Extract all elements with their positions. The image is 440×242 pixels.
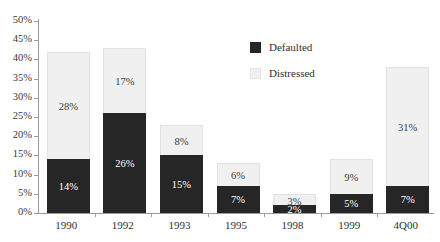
y-axis-tick-label: 20% — [2, 130, 32, 140]
legend-swatch-defaulted-icon — [250, 42, 261, 53]
y-axis-tick-label: 25% — [2, 111, 32, 121]
y-axis-tick-label: 5% — [2, 188, 32, 198]
y-axis-tick-label: 45% — [2, 34, 32, 44]
x-axis-category-label: 1999 — [317, 219, 381, 231]
bar-segment-defaulted[interactable]: 2% — [273, 205, 316, 213]
bar-value-label-distressed: 17% — [104, 76, 145, 87]
y-axis-tick-mark — [34, 213, 39, 214]
y-axis-tick-mark — [34, 21, 39, 22]
bar-value-label-distressed: 28% — [48, 101, 89, 112]
y-axis-tick-mark — [34, 155, 39, 156]
bar-value-label-distressed: 9% — [331, 172, 372, 183]
y-axis-tick-mark — [34, 194, 39, 195]
bar-group[interactable]: 3%2% — [273, 194, 316, 213]
x-axis-category-label: 1990 — [34, 219, 98, 231]
x-axis-category-label: 4Q00 — [374, 219, 438, 231]
bar-group[interactable]: 6%7% — [217, 163, 260, 213]
bars-container: 28%14%17%26%8%15%6%7%3%2%9%5%31%7% — [38, 0, 434, 242]
x-axis-tick-mark — [151, 213, 152, 217]
bar-group[interactable]: 31%7% — [386, 67, 429, 213]
y-axis-tick-label: 40% — [2, 53, 32, 63]
bar-value-label-defaulted: 2% — [273, 204, 316, 215]
y-axis-labels: 50%45%40%35%30%25%20%15%10%5%0% — [0, 0, 32, 242]
y-axis-tick-mark — [34, 175, 39, 176]
bar-segment-distressed[interactable]: 31% — [386, 67, 429, 186]
bar-segment-distressed[interactable]: 9% — [330, 159, 373, 194]
legend-label-distressed: Distressed — [269, 67, 315, 79]
bar-group[interactable]: 9%5% — [330, 159, 373, 213]
x-axis-category-label: 1995 — [204, 219, 268, 231]
x-axis-tick-mark — [321, 213, 322, 217]
y-axis-tick-mark — [34, 59, 39, 60]
x-axis-tick-mark — [264, 213, 265, 217]
bar-segment-defaulted[interactable]: 5% — [330, 194, 373, 213]
bar-group[interactable]: 28%14% — [47, 52, 90, 213]
bar-segment-distressed[interactable]: 8% — [160, 125, 203, 156]
x-axis-category-label: 1992 — [91, 219, 155, 231]
bar-value-label-defaulted: 15% — [160, 179, 203, 190]
bar-group[interactable]: 17%26% — [103, 48, 146, 213]
bar-segment-defaulted[interactable]: 7% — [386, 186, 429, 213]
bar-value-label-defaulted: 26% — [103, 158, 146, 169]
x-axis-category-label: 1993 — [147, 219, 211, 231]
bar-value-label-distressed: 31% — [387, 122, 428, 133]
y-axis-tick-label: 35% — [2, 73, 32, 83]
x-axis-category-label: 1998 — [261, 219, 325, 231]
chart-legend: Defaulted Distressed — [250, 38, 315, 90]
y-axis-tick-label: 0% — [2, 207, 32, 217]
stacked-bar-chart: 50%45%40%35%30%25%20%15%10%5%0% 28%14%17… — [0, 0, 440, 242]
y-axis-tick-label: 50% — [2, 15, 32, 25]
y-axis-tick-mark — [34, 117, 39, 118]
y-axis-tick-label: 15% — [2, 149, 32, 159]
bar-value-label-defaulted: 5% — [330, 198, 373, 209]
legend-swatch-distressed-icon — [250, 68, 261, 79]
x-axis-tick-mark — [95, 213, 96, 217]
bar-segment-distressed[interactable]: 28% — [47, 52, 90, 160]
bar-segment-defaulted[interactable]: 26% — [103, 113, 146, 213]
bar-segment-distressed[interactable]: 6% — [217, 163, 260, 186]
bar-group[interactable]: 8%15% — [160, 125, 203, 213]
legend-label-defaulted: Defaulted — [269, 41, 312, 53]
bar-value-label-defaulted: 7% — [217, 194, 260, 205]
x-axis-tick-mark — [208, 213, 209, 217]
legend-item-distressed[interactable]: Distressed — [250, 64, 315, 82]
legend-item-defaulted[interactable]: Defaulted — [250, 38, 315, 56]
bar-segment-distressed[interactable]: 17% — [103, 48, 146, 113]
bar-value-label-defaulted: 14% — [47, 181, 90, 192]
y-axis-tick-mark — [34, 79, 39, 80]
y-axis-tick-mark — [34, 136, 39, 137]
y-axis-tick-label: 10% — [2, 169, 32, 179]
bar-value-label-distressed: 8% — [161, 136, 202, 147]
bar-value-label-distressed: 6% — [218, 170, 259, 181]
y-axis-tick-mark — [34, 40, 39, 41]
bar-value-label-defaulted: 7% — [386, 194, 429, 205]
y-axis-tick-mark — [34, 98, 39, 99]
y-axis-tick-label: 30% — [2, 92, 32, 102]
bar-segment-defaulted[interactable]: 15% — [160, 155, 203, 213]
bar-segment-defaulted[interactable]: 14% — [47, 159, 90, 213]
x-axis-tick-mark — [377, 213, 378, 217]
bar-segment-defaulted[interactable]: 7% — [217, 186, 260, 213]
